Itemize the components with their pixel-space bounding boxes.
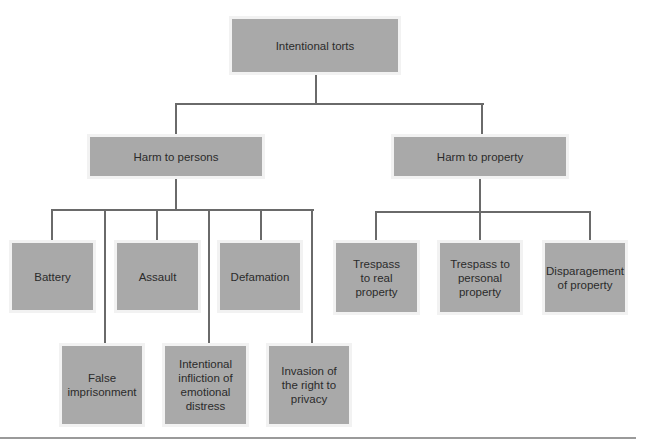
- node-battery: Battery: [12, 243, 93, 310]
- node-invasion-of-privacy: Invasion of the right to privacy: [269, 346, 349, 424]
- connector-trespass-personal: [479, 211, 481, 243]
- connector-defamation: [260, 209, 262, 243]
- bottom-rule: [0, 437, 636, 439]
- node-harm-to-property: Harm to property: [394, 137, 566, 176]
- connector-false-imprisonment: [104, 209, 106, 346]
- node-false-imprisonment: False imprisonment: [62, 346, 142, 424]
- node-harm-to-persons: Harm to persons: [90, 137, 262, 176]
- connector-battery: [51, 209, 53, 243]
- connector-assault: [156, 209, 158, 243]
- connector-iied: [208, 209, 210, 346]
- connector-to-persons: [175, 103, 177, 136]
- node-intentional-torts: Intentional torts: [232, 19, 398, 72]
- node-intentional-infliction-emotional-distress: Intentional infliction of emotional dist…: [165, 346, 246, 424]
- connector-persons-bus: [51, 209, 314, 211]
- node-trespass-to-personal-property: Trespass to personal property: [440, 243, 520, 312]
- connector-persons-down: [175, 176, 177, 211]
- connector-property-down: [479, 176, 481, 213]
- node-trespass-to-real-property: Trespass to real property: [336, 243, 417, 312]
- connector-root-bus: [175, 103, 484, 105]
- connector-invasion-privacy: [311, 209, 313, 346]
- connector-property-bus: [375, 211, 591, 213]
- connector-trespass-real: [375, 211, 377, 243]
- node-defamation: Defamation: [220, 243, 300, 310]
- connector-root-down: [315, 72, 317, 105]
- connector-to-property: [481, 103, 483, 136]
- node-disparagement-of-property: Disparagement of property: [545, 243, 625, 312]
- connector-disparagement: [589, 211, 591, 243]
- node-assault: Assault: [117, 243, 198, 310]
